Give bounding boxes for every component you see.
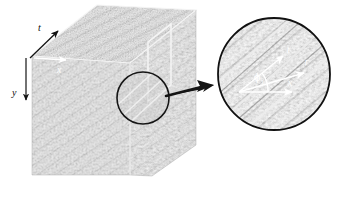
block-front-face (28, 50, 138, 180)
inset-axis-r-label: r (305, 57, 309, 67)
axis-y-label: y (11, 87, 17, 98)
inset-axis-x-label: x (287, 78, 293, 88)
figure-canvas: t x y (0, 0, 338, 205)
inset-axis-t-label: t (287, 45, 290, 55)
axis-t-label: t (38, 22, 41, 33)
figure-root: t x y (0, 0, 338, 205)
angle-phi-symbol: ϕ (254, 72, 261, 83)
axis-x-label: x (56, 65, 62, 75)
